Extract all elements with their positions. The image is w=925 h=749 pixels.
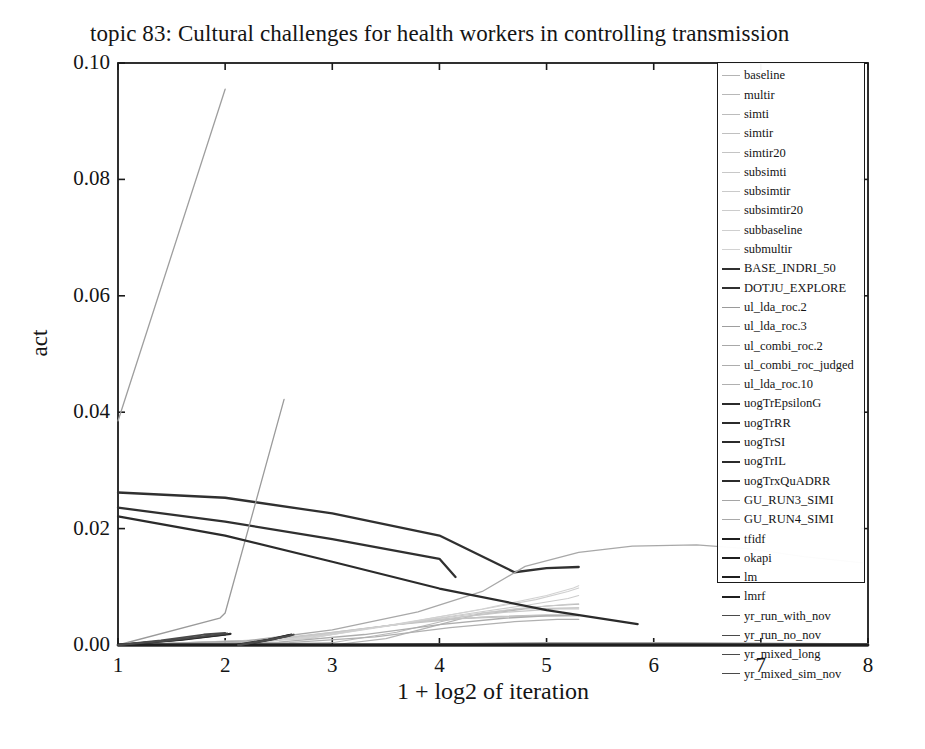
legend-item-label: ul_lda_roc.3	[744, 320, 807, 333]
legend-line-icon	[722, 615, 740, 616]
legend-line-icon	[722, 249, 740, 250]
legend-item-label: subsimti	[744, 166, 786, 179]
legend-item[interactable]: yr_mixed_sim_nov	[718, 664, 864, 683]
legend-line-icon	[722, 596, 740, 598]
legend-line-icon	[722, 345, 740, 346]
legend-item-label: ul_combi_roc.2	[744, 340, 823, 353]
legend-line-icon	[722, 230, 740, 231]
legend-item-label: subbaseline	[744, 224, 802, 237]
legend-item-label: ul_lda_roc.2	[744, 301, 807, 314]
legend-item-label: okapi	[744, 552, 772, 565]
legend-item[interactable]: lm	[718, 568, 864, 587]
series-line	[118, 493, 579, 573]
legend-item[interactable]: submultir	[718, 240, 864, 259]
legend-item-label: yr_run_no_nov	[744, 629, 821, 642]
legend-item[interactable]: simti	[718, 105, 864, 124]
legend-item-label: lm	[744, 571, 757, 584]
legend-item[interactable]: simtir20	[718, 143, 864, 162]
legend-item[interactable]: ul_lda_roc.3	[718, 317, 864, 336]
legend-item-label: GU_RUN4_SIMI	[744, 513, 834, 526]
legend-line-icon	[722, 538, 740, 540]
series-line	[118, 508, 456, 577]
legend-item[interactable]: BASE_INDRI_50	[718, 259, 864, 278]
legend-line-icon	[722, 287, 740, 289]
legend-item[interactable]: DOTJU_EXPLORE	[718, 278, 864, 297]
legend-item[interactable]: okapi	[718, 548, 864, 567]
legend-item[interactable]: ul_combi_roc.2	[718, 336, 864, 355]
legend-item[interactable]: yr_mixed_long	[718, 645, 864, 664]
legend-item[interactable]: uogTrIL	[718, 452, 864, 471]
legend-item[interactable]: yr_run_with_nov	[718, 606, 864, 625]
legend-item[interactable]: GU_RUN3_SIMI	[718, 491, 864, 510]
legend-line-icon	[722, 133, 740, 134]
legend-line-icon	[722, 654, 740, 655]
legend-item[interactable]: simtir	[718, 124, 864, 143]
legend-item-label: simtir	[744, 127, 773, 140]
legend[interactable]: baselinemultirsimtisimtirsimtir20subsimt…	[717, 62, 865, 583]
legend-line-icon	[722, 635, 740, 636]
legend-line-icon	[722, 480, 740, 482]
legend-item-label: yr_mixed_long	[744, 648, 820, 661]
legend-item[interactable]: ul_lda_roc.10	[718, 375, 864, 394]
legend-item[interactable]: uogTrEpsilonG	[718, 394, 864, 413]
legend-item[interactable]: subsimti	[718, 162, 864, 181]
legend-item[interactable]: baseline	[718, 66, 864, 85]
legend-line-icon	[722, 94, 740, 95]
legend-line-icon	[722, 75, 740, 76]
legend-line-icon	[722, 422, 740, 424]
legend-item[interactable]: lmrf	[718, 587, 864, 606]
legend-item-label: uogTrxQuADRR	[744, 475, 830, 488]
legend-line-icon	[722, 268, 740, 270]
legend-item[interactable]: multir	[718, 85, 864, 104]
legend-item-label: ul_combi_roc_judged	[744, 359, 854, 372]
legend-item[interactable]: ul_lda_roc.2	[718, 298, 864, 317]
chart-figure: topic 83: Cultural challenges for health…	[0, 0, 925, 749]
legend-line-icon	[722, 307, 740, 308]
legend-item[interactable]: tfidf	[718, 529, 864, 548]
series-line	[118, 89, 225, 421]
legend-line-icon	[722, 673, 740, 674]
legend-item-label: uogTrSI	[744, 436, 785, 449]
legend-line-icon	[722, 384, 740, 385]
legend-item-label: subsimtir20	[744, 204, 803, 217]
legend-item-label: subsimtir	[744, 185, 791, 198]
legend-line-icon	[722, 365, 740, 366]
legend-item-label: GU_RUN3_SIMI	[744, 494, 834, 507]
legend-item-label: uogTrIL	[744, 455, 786, 468]
legend-item-label: simtir20	[744, 147, 786, 160]
legend-item-label: tfidf	[744, 533, 766, 546]
legend-line-icon	[722, 557, 740, 559]
legend-item-label: ul_lda_roc.10	[744, 378, 813, 391]
legend-item[interactable]: ul_combi_roc_judged	[718, 355, 864, 374]
legend-item-label: lmrf	[744, 590, 766, 603]
legend-line-icon	[722, 500, 740, 501]
legend-item-label: baseline	[744, 69, 785, 82]
legend-line-icon	[722, 326, 740, 327]
legend-line-icon	[722, 576, 740, 578]
legend-item-label: yr_mixed_sim_nov	[744, 668, 841, 681]
legend-item[interactable]: yr_run_no_nov	[718, 626, 864, 645]
legend-item[interactable]: uogTrRR	[718, 413, 864, 432]
legend-item-label: uogTrEpsilonG	[744, 397, 821, 410]
legend-item[interactable]: subsimtir20	[718, 201, 864, 220]
legend-item[interactable]: GU_RUN4_SIMI	[718, 510, 864, 529]
legend-item[interactable]: subsimtir	[718, 182, 864, 201]
legend-line-icon	[722, 441, 740, 443]
legend-item-label: uogTrRR	[744, 417, 791, 430]
legend-line-icon	[722, 461, 740, 463]
legend-line-icon	[722, 519, 740, 520]
legend-item-label: BASE_INDRI_50	[744, 262, 836, 275]
legend-line-icon	[722, 114, 740, 115]
legend-item-label: yr_run_with_nov	[744, 610, 831, 623]
legend-line-icon	[722, 152, 740, 153]
legend-item[interactable]: uogTrxQuADRR	[718, 471, 864, 490]
legend-item-label: multir	[744, 89, 775, 102]
series-line	[118, 399, 284, 645]
legend-line-icon	[722, 403, 740, 405]
legend-line-icon	[722, 191, 740, 192]
legend-item-label: DOTJU_EXPLORE	[744, 282, 846, 295]
legend-item[interactable]: uogTrSI	[718, 433, 864, 452]
legend-item-label: simti	[744, 108, 769, 121]
legend-line-icon	[722, 210, 740, 211]
legend-item[interactable]: subbaseline	[718, 220, 864, 239]
